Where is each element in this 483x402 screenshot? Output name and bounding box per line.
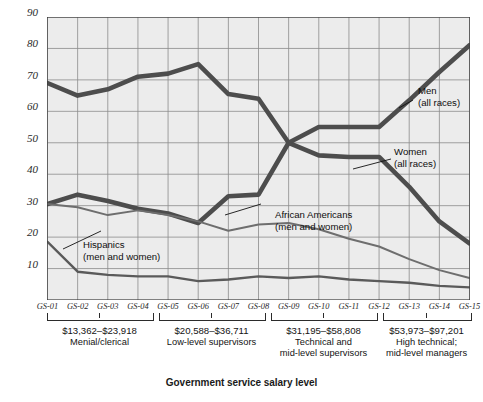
group-tick-2 [211, 313, 212, 318]
annotation-women-line1: Women [394, 146, 436, 158]
x-tick-gs-11: GS-11 [332, 302, 366, 311]
y-tick-40: 40 [12, 163, 38, 175]
x-tick-gs-05: GS-05 [151, 302, 185, 311]
group-tick-1 [99, 313, 100, 318]
x-tick-gs-02: GS-02 [61, 302, 95, 311]
group-label-4: $53,973–$97,201 High technical; mid-leve… [364, 325, 483, 360]
x-tick-gs-09: GS-09 [272, 302, 306, 311]
group-4-salary-range: $53,973–$97,201 [364, 325, 483, 337]
x-tick-gs-06: GS-06 [181, 302, 215, 311]
annotation-hispanics-line2: (men and women) [83, 251, 160, 263]
x-tick-gs-10: GS-10 [302, 302, 336, 311]
x-tick-gs-04: GS-04 [121, 302, 155, 311]
group-bracket-1 [47, 313, 154, 321]
y-tick-30: 30 [12, 195, 38, 207]
x-tick-gs-15: GS-15 [453, 302, 483, 311]
annotation-hispanics: Hispanics (men and women) [83, 239, 160, 262]
annotation-women-line2: (all races) [394, 158, 436, 170]
y-tick-80: 80 [12, 37, 38, 49]
y-tick-10: 10 [12, 258, 38, 270]
group-bracket-3 [271, 313, 378, 321]
annotation-african-americans: African Americans (men and women) [275, 209, 352, 232]
y-tick-90: 90 [12, 6, 38, 18]
x-tick-gs-08: GS-08 [242, 302, 276, 311]
annotation-hispanics-line1: Hispanics [83, 239, 160, 251]
x-tick-gs-14: GS-14 [422, 302, 456, 311]
group-4-desc-line1: High technical; [364, 337, 483, 349]
annotation-women: Women (all races) [394, 146, 436, 169]
x-tick-gs-13: GS-13 [392, 302, 426, 311]
annotation-african-americans-line2: (men and women) [275, 221, 352, 233]
x-axis-title: Government service salary level [0, 377, 483, 388]
x-tick-gs-07: GS-07 [211, 302, 245, 311]
group-tick-4 [426, 313, 427, 318]
group-bracket-2 [159, 313, 266, 321]
group-bracket-4 [383, 313, 472, 321]
annotation-men-line1: Men [418, 85, 460, 97]
x-tick-gs-01: GS-01 [31, 302, 65, 311]
group-4-desc-line2: mid-level managers [364, 348, 483, 360]
annotation-african-americans-line1: African Americans [275, 209, 352, 221]
y-tick-60: 60 [12, 100, 38, 112]
y-tick-20: 20 [12, 226, 38, 238]
x-tick-gs-03: GS-03 [91, 302, 125, 311]
annotation-men-line2: (all races) [418, 97, 460, 109]
x-tick-gs-12: GS-12 [362, 302, 396, 311]
chart-figure: Percentage of government employees 90 80… [0, 0, 483, 402]
annotation-men: Men (all races) [418, 85, 460, 108]
y-tick-70: 70 [12, 69, 38, 81]
y-tick-50: 50 [12, 132, 38, 144]
group-tick-3 [323, 313, 324, 318]
